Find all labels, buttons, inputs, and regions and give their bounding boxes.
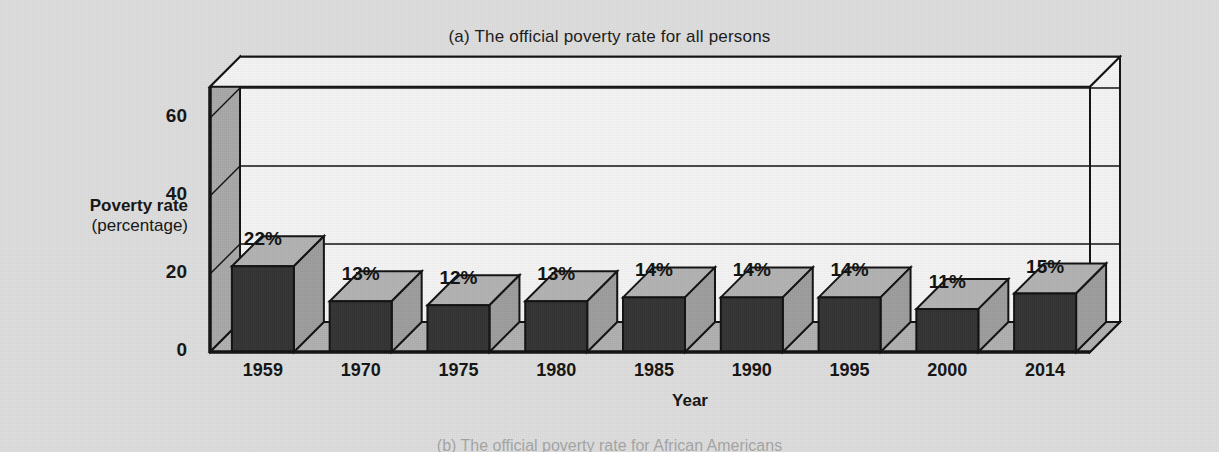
x-tick-2000: 2000 xyxy=(902,360,992,381)
value-label-1970: 13% xyxy=(321,263,401,285)
value-label-1959: 22% xyxy=(223,228,303,250)
value-label-1990: 14% xyxy=(712,259,792,281)
value-label-1985: 14% xyxy=(614,259,694,281)
x-tick-2014: 2014 xyxy=(1000,360,1090,381)
x-tick-1970: 1970 xyxy=(316,360,406,381)
x-tick-1995: 1995 xyxy=(805,360,895,381)
value-label-1980: 13% xyxy=(516,263,596,285)
figure-panel-a: (a) The official poverty rate for all pe… xyxy=(0,0,1219,452)
x-tick-1975: 1975 xyxy=(413,360,503,381)
value-label-1975: 12% xyxy=(418,267,498,289)
value-label-2014: 15% xyxy=(1005,256,1085,278)
value-label-2000: 11% xyxy=(907,271,987,293)
x-axis-tick-labels: 195919701975198019851990199520002014 xyxy=(0,360,1219,388)
value-label-1995: 14% xyxy=(810,259,890,281)
x-tick-1985: 1985 xyxy=(609,360,699,381)
next-panel-caption: (b) The official poverty rate for Africa… xyxy=(0,437,1219,452)
x-tick-1959: 1959 xyxy=(218,360,308,381)
x-axis-title: Year xyxy=(190,391,1190,411)
x-tick-1980: 1980 xyxy=(511,360,601,381)
x-tick-1990: 1990 xyxy=(707,360,797,381)
